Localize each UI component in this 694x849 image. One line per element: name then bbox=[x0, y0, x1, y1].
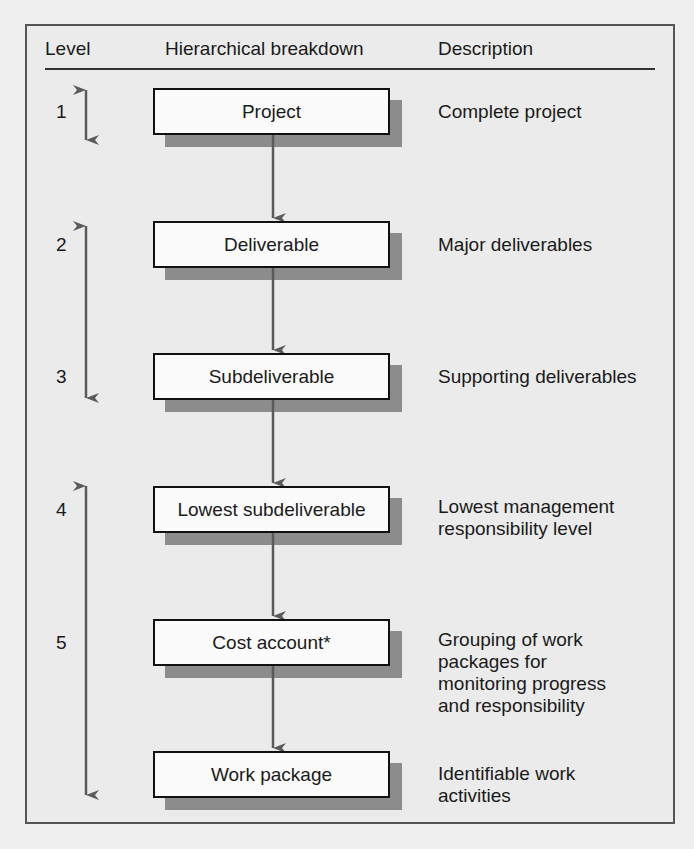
description-level-2: Major deliverables bbox=[438, 234, 592, 256]
wbs-box-deliverable: Deliverable bbox=[153, 221, 390, 268]
wbs-box-project: Project bbox=[153, 88, 390, 135]
wbs-box-work-package: Work package bbox=[153, 751, 390, 798]
description-level-3: Supporting deliverables bbox=[438, 366, 637, 388]
description-level-5: Grouping of work packages for monitoring… bbox=[438, 629, 606, 717]
wbs-box-cost-account: Cost account* bbox=[153, 619, 390, 666]
description-level-4: Lowest management responsibility level bbox=[438, 496, 614, 540]
description-level-6: Identifiable work activities bbox=[438, 763, 575, 807]
wbs-box-subdeliverable: Subdeliverable bbox=[153, 353, 390, 400]
description-level-1: Complete project bbox=[438, 101, 582, 123]
wbs-box-lowest-subdeliverable: Lowest subdeliverable bbox=[153, 486, 390, 533]
